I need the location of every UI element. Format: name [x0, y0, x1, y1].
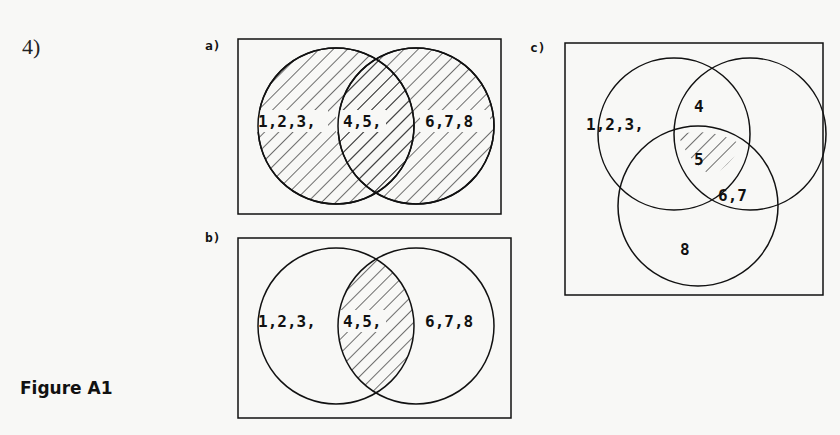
svg-text:4: 4	[694, 97, 704, 116]
svg-text:1,2,3,: 1,2,3,	[586, 115, 644, 134]
svg-text:6,7: 6,7	[718, 186, 747, 205]
svg-text:4,5,: 4,5,	[343, 312, 382, 331]
svg-text:1,2,3,: 1,2,3,	[258, 312, 316, 331]
svg-text:8: 8	[680, 240, 690, 259]
svg-text:6,7,8: 6,7,8	[425, 112, 473, 131]
venn-diagrams: 1,2,3, 4,5, 6,7,8 1,2,3, 4,5, 6,7,8 1,2,…	[0, 0, 840, 435]
svg-text:1,2,3,: 1,2,3,	[258, 112, 316, 131]
panel-b: 1,2,3, 4,5, 6,7,8	[238, 238, 511, 418]
panel-a: 1,2,3, 4,5, 6,7,8	[238, 39, 501, 214]
svg-text:4,5,: 4,5,	[343, 112, 382, 131]
svg-text:6,7,8: 6,7,8	[425, 312, 473, 331]
svg-text:5: 5	[694, 150, 704, 169]
panel-c: 1,2,3, 4 5 6,7 8	[565, 43, 826, 295]
